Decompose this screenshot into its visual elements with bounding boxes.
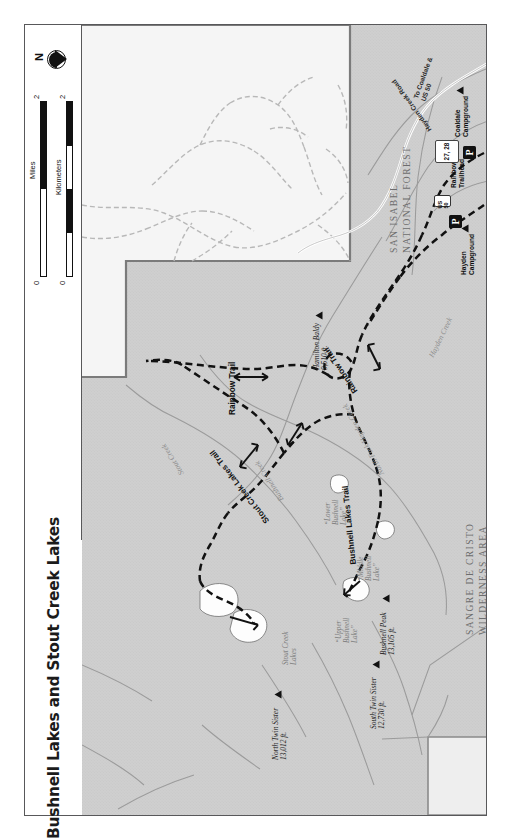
km-tick-max: 2 bbox=[58, 95, 67, 99]
scale-bars: 2 0 Kilometers 2 0 Miles bbox=[27, 87, 80, 302]
south-twin-sister-marker bbox=[373, 661, 380, 669]
mi-unit-label: Miles bbox=[28, 161, 37, 179]
north-twin-sister-marker bbox=[275, 691, 282, 699]
mi-tick-min: 0 bbox=[32, 281, 41, 285]
hamilton-baldy-marker bbox=[316, 312, 323, 320]
km-tick-min: 0 bbox=[58, 281, 67, 285]
compass-rose-icon: N bbox=[39, 43, 73, 77]
map-canvas[interactable]: SAN ISABEL NATIONAL FOREST SANGRE DE CRI… bbox=[82, 25, 486, 815]
bushnell-peak-marker bbox=[383, 595, 390, 603]
mile-marker-label: 27, 28 bbox=[443, 143, 450, 161]
map-graphics bbox=[82, 25, 486, 815]
title-block: Bushnell Lakes and Stout Creek Lakes bbox=[25, 540, 82, 815]
km-unit-label: Kilometers bbox=[54, 160, 63, 195]
route-shield-us50: US 50 bbox=[434, 195, 451, 207]
rainbow-trailhead-parking-icon[interactable]: P bbox=[463, 146, 476, 159]
miles-bar bbox=[40, 101, 47, 277]
scale-bar-kilometers: 2 0 Kilometers bbox=[53, 87, 79, 302]
north-label: N bbox=[33, 53, 45, 61]
map-page: SAN ISABEL NATIONAL FOREST SANGRE DE CRI… bbox=[0, 0, 511, 840]
scale-bar-miles: 2 0 Miles bbox=[27, 87, 53, 302]
mi-tick-max: 2 bbox=[32, 95, 41, 99]
map-frame: SAN ISABEL NATIONAL FOREST SANGRE DE CRI… bbox=[24, 24, 487, 816]
hayden-campground-marker bbox=[462, 225, 469, 233]
coaldale-campground-marker bbox=[457, 87, 464, 95]
map-side-panel: N 2 0 Kilometers 2 0 Miles bbox=[25, 25, 82, 815]
hayden-campground-parking-icon[interactable]: P bbox=[449, 215, 462, 228]
page-title: Bushnell Lakes and Stout Creek Lakes bbox=[45, 516, 63, 838]
mile-marker-27-28: 27, 28 bbox=[435, 140, 459, 163]
shield-label: US 50 bbox=[438, 194, 448, 209]
kilometers-bar bbox=[66, 101, 73, 277]
